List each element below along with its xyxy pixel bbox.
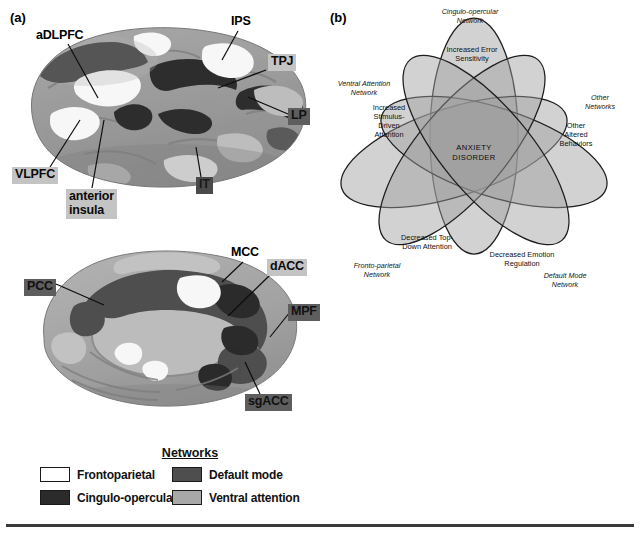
legend-label-frontoparietal: Frontoparietal [77, 468, 155, 482]
brain-label-anterior-insula: anterior insula [66, 189, 117, 219]
footer-rule [6, 524, 634, 527]
venn-diagram: Increased ErrorSensitivityCingulo-opercu… [322, 0, 640, 310]
legend-item-default-mode: Default mode [172, 467, 340, 482]
brain-label-pcc: PCC [24, 279, 56, 296]
venn-network-other-networks: OtherNetworks [585, 93, 615, 111]
legend-label-cingulo-opercular: Cingulo-opercular [77, 491, 177, 505]
medial-brain-view [28, 240, 308, 420]
legend-label-default-mode: Default mode [209, 468, 283, 482]
brain-label-it: IT [196, 177, 213, 194]
legend-title: Networks [40, 446, 340, 460]
brain-label-tpj: TPJ [268, 54, 296, 71]
brain-label-mpf: MPF [288, 304, 320, 321]
brain-label-adlpfc: aDLPFC [33, 28, 86, 45]
venn-network-ventral-attention: Ventral AttentionNetwork [338, 79, 391, 97]
brain-label-lp: LP [288, 108, 310, 125]
legend-label-ventral-attention: Ventral attention [209, 491, 300, 505]
venn-center-anxiety-disorder: ANXIETYDISORDER [452, 143, 495, 162]
venn-network-default-mode: Default ModeNetwork [544, 271, 587, 289]
venn-network-fronto-parietal: Fronto-parietalNetwork [354, 261, 401, 279]
networks-legend: Networks Frontoparietal Default mode Cin… [40, 446, 340, 505]
legend-item-cingulo-opercular: Cingulo-opercular [40, 490, 168, 505]
legend-swatch-default-mode [172, 467, 202, 482]
venn-network-cingulo-opercular: Cingulo-opercularNetwork [442, 7, 499, 25]
brain-label-sgacc: sgACC [245, 394, 292, 411]
brain-label-vlpfc: VLPFC [12, 167, 58, 184]
legend-item-ventral-attention: Ventral attention [172, 490, 340, 505]
legend-swatch-cingulo-opercular [40, 490, 70, 505]
brain-label-dacc: dACC [267, 259, 307, 276]
brain-label-mcc: MCC [228, 245, 262, 262]
venn-behavior-default-mode: Decreased EmotionRegulation [490, 250, 555, 268]
brain-label-ips: IPS [228, 14, 254, 31]
figure-root: (a) [0, 0, 640, 537]
venn-behavior-fronto-parietal: Decreased Top-Down Attention [401, 233, 454, 251]
legend-item-frontoparietal: Frontoparietal [40, 467, 168, 482]
legend-swatch-frontoparietal [40, 467, 70, 482]
legend-swatch-ventral-attention [172, 490, 202, 505]
